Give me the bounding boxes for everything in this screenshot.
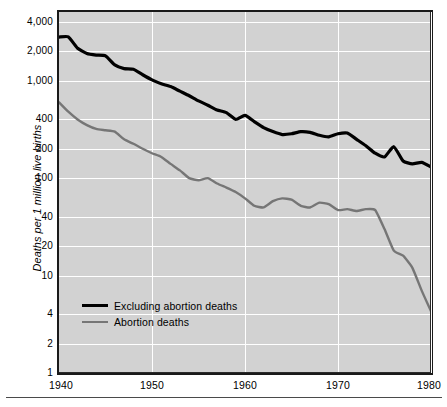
x-axis-ticks: 19401950196019701980: [0, 0, 447, 407]
x-tick-label: 1960: [225, 380, 265, 391]
chart-legend: Excluding abortion deaths Abortion death…: [82, 296, 282, 328]
footer-rule: [6, 397, 442, 398]
x-tick-label: 1940: [41, 380, 81, 391]
legend-item-excluding-abortion-deaths: Excluding abortion deaths: [82, 296, 282, 312]
x-tick-label: 1970: [318, 380, 358, 391]
x-tick-label: 1950: [132, 380, 172, 391]
legend-item-abortion-deaths: Abortion deaths: [82, 312, 282, 328]
legend-label: Excluding abortion deaths: [114, 300, 237, 312]
y-axis-title: Deaths per 1 million live births: [31, 98, 43, 298]
legend-label: Abortion deaths: [114, 316, 189, 328]
x-tick-label: 1980: [409, 380, 447, 391]
chart-figure: 4,0002,0001,000400200100402010421 194019…: [0, 0, 447, 407]
legend-swatch-black-line-icon: [82, 304, 108, 307]
legend-swatch-gray-line-icon: [82, 321, 108, 323]
